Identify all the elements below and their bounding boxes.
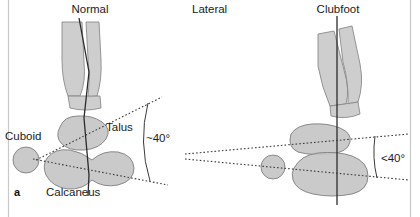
clubfoot-title: Clubfoot [317, 3, 361, 15]
view-label: Lateral [192, 3, 227, 15]
cuboid-label: Cuboid [5, 130, 41, 142]
cuboid-bone-normal [13, 147, 39, 173]
calcaneus-label: Calcaneus [46, 186, 101, 198]
talus-bone-clubfoot [290, 124, 350, 155]
calcaneus-bone-clubfoot [292, 152, 368, 196]
panel-letter: a [14, 186, 21, 198]
normal-angle-label: ~40° [146, 132, 170, 144]
cuboid-bone-clubfoot [261, 155, 285, 179]
talus-bone-normal [58, 116, 109, 150]
clubfoot-angle-label: <40° [381, 152, 405, 164]
normal-title: Normal [71, 3, 108, 15]
talus-label: Talus [106, 121, 133, 133]
clubfoot-lateral-figure: Normal Talus Cuboid Calcaneus ~40° a [0, 0, 420, 217]
figure-page: Normal Talus Cuboid Calcaneus ~40° a [0, 0, 420, 217]
tibia-bone-normal [62, 22, 85, 96]
